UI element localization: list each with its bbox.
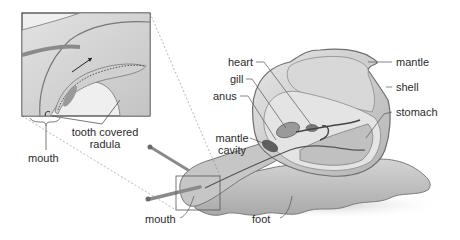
label-gill: gill xyxy=(230,73,243,85)
label-mantle-cavity-line2: cavity xyxy=(212,144,252,156)
upper-tentacle xyxy=(152,148,188,170)
label-heart: heart xyxy=(228,56,253,68)
label-radula-line2: radula xyxy=(70,138,140,150)
label-mouth: mouth xyxy=(145,213,176,225)
inset-mouth-bracket xyxy=(30,118,60,126)
label-anus: anus xyxy=(213,90,237,102)
snail-anatomy-diagram xyxy=(0,0,460,240)
label-mantle-cavity: mantle cavity xyxy=(212,132,252,156)
label-mantle: mantle xyxy=(396,56,429,68)
label-foot: foot xyxy=(252,213,270,225)
label-shell: shell xyxy=(396,81,419,93)
label-mantle-cavity-line1: mantle xyxy=(212,132,252,144)
radula-inset xyxy=(22,13,150,118)
diagram-canvas xyxy=(0,0,460,240)
label-stomach: stomach xyxy=(396,106,438,118)
upper-tentacle-eye xyxy=(148,145,153,150)
radula-leader-1 xyxy=(52,116,102,124)
label-radula: tooth covered radula xyxy=(70,126,140,150)
label-radula-line1: tooth covered xyxy=(70,126,140,138)
label-inset-mouth: mouth xyxy=(28,152,59,164)
lower-tentacle-eye xyxy=(146,197,151,202)
